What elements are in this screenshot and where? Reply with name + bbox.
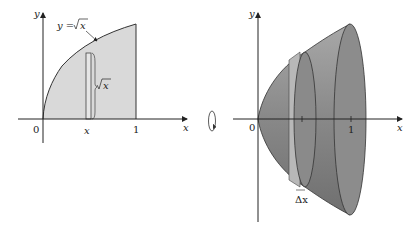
y-axis-label: y <box>248 8 255 19</box>
origin-label: 0 <box>33 124 39 135</box>
strip-height-radicand: x <box>103 80 109 91</box>
slab-width-label: Δx <box>295 194 308 205</box>
one-label: 1 <box>133 124 139 135</box>
curve-label-pointer <box>86 31 97 41</box>
right-graph: y x 0 1 Δx <box>233 8 403 222</box>
strip <box>86 53 91 119</box>
origin-label: 0 <box>249 122 255 133</box>
curve-label-prefix: y = <box>56 20 74 31</box>
y-axis-label: y <box>33 8 40 19</box>
curve-label-radicand: x <box>80 20 86 31</box>
rotation-arrow-icon <box>209 111 217 131</box>
x-axis-label: x <box>183 122 189 133</box>
curve-label: y = x <box>56 19 88 31</box>
left-graph: y x 0 x 1 y = x x <box>18 8 189 143</box>
one-label: 1 <box>348 124 354 135</box>
x-sample-label: x <box>84 125 90 136</box>
x-axis-label: x <box>397 122 403 133</box>
volume-of-revolution-diagram: y x 0 x 1 y = x x y x 0 1 Δx <box>0 0 412 228</box>
